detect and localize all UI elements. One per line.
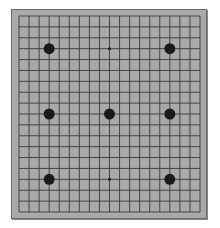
- black-stone-icon[interactable]: [104, 109, 115, 120]
- board-grid[interactable]: [0, 0, 220, 228]
- black-stone-icon[interactable]: [164, 109, 175, 120]
- star-point-icon: [108, 178, 111, 181]
- black-stone-icon[interactable]: [44, 43, 55, 54]
- black-stone-icon[interactable]: [44, 174, 55, 185]
- black-stone-icon[interactable]: [164, 43, 175, 54]
- star-point-icon: [108, 47, 111, 50]
- black-stone-icon[interactable]: [164, 174, 175, 185]
- black-stone-icon[interactable]: [44, 109, 55, 120]
